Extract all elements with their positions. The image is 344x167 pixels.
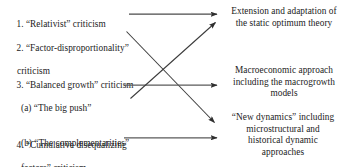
outcome-block-2: Macroeconomic approach including the mac… xyxy=(226,65,342,100)
item-3-line-2: (a) “The big push” xyxy=(7,103,134,115)
item-4-line-2: factors” criticism xyxy=(7,163,127,167)
outcome-3-line-3: historical dynamic xyxy=(224,135,342,147)
item-4-line-1: 4. “Cumulative disequalizing xyxy=(17,140,127,150)
outcome-block-1: Extension and adaptation of the static o… xyxy=(226,6,342,29)
diagram-canvas: 1. “Relativist” criticism 2. “Factor-dis… xyxy=(0,0,344,167)
outcome-3-line-1: “New dynamics” including xyxy=(224,112,342,124)
outcome-3-line-4: approaches xyxy=(224,147,342,159)
outcome-3-line-2: microstructural and xyxy=(224,124,342,136)
arrow-2-to-outcome-3 xyxy=(127,32,215,123)
outcome-1-line-2: the static optimum theory xyxy=(226,18,342,30)
outcome-2-line-3: models xyxy=(226,88,342,100)
outcome-2-line-2: including the macrogrowth xyxy=(226,77,342,89)
outcome-1-line-1: Extension and adaptation of xyxy=(226,6,342,18)
arrow-3b-to-outcome-1 xyxy=(131,23,216,99)
outcome-2-line-1: Macroeconomic approach xyxy=(226,65,342,77)
outcome-block-3: “New dynamics” including microstructural… xyxy=(224,112,342,158)
item-2-line-1: 2. “Factor-disproportionality” xyxy=(17,43,129,53)
list-item-4: 4. “Cumulative disequalizing factors” cr… xyxy=(7,128,127,167)
item-3-line-1: 3. “Balanced growth” criticism xyxy=(17,80,134,90)
item-1-line-1: 1. “Relativist” criticism xyxy=(17,19,106,29)
